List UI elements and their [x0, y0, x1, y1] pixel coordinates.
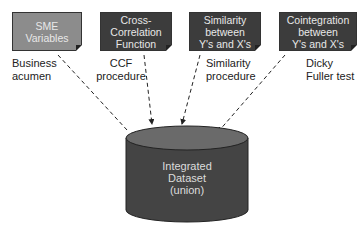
page-fold-icon [255, 45, 261, 51]
sme-variables-box: SMEVariables [12, 12, 82, 51]
page-fold-icon [76, 45, 82, 51]
similarity-procedure-label: Similarityprocedure [206, 57, 256, 83]
dicky-fuller-label: DickyFuller test [306, 57, 354, 83]
ccf-procedure-label: CCFprocedure [96, 57, 146, 83]
similarity-box: SimilaritybetweenY's and X's [189, 12, 261, 51]
page-fold-icon [351, 45, 357, 51]
integrated-dataset-label: IntegratedDataset(union) [142, 160, 232, 196]
business-acumen-label: Businessacumen [12, 57, 57, 83]
ccf-box: Cross-CorrelationFunction [100, 12, 172, 51]
cointegration-box: CointegrationbetweenY's and X's [279, 12, 357, 51]
page-fold-icon [166, 45, 172, 51]
